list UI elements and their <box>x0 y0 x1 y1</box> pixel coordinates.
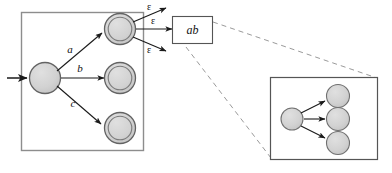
transition-a-label: a <box>67 43 73 55</box>
transition-c-label: c <box>71 97 76 109</box>
epsilon-label-lower: ε <box>147 44 151 55</box>
start-state <box>30 63 61 94</box>
magnifier-line-upper <box>213 22 377 78</box>
state-bottom-outer-circle <box>105 113 136 144</box>
transition-c-arrow <box>57 86 101 124</box>
diagram-canvas: a b c ε ε ε ab <box>0 0 392 173</box>
magnifier-line-lower <box>186 47 271 158</box>
inset-state-bottom <box>327 132 350 155</box>
state-top-outer-circle <box>105 14 136 45</box>
epsilon-label-upper: ε <box>147 1 151 12</box>
epsilon-label-middle: ε <box>151 15 155 26</box>
inset-state-middle <box>327 108 350 131</box>
transition-b-label: b <box>77 62 83 74</box>
ab-label-text: ab <box>187 23 199 37</box>
inset-start-state <box>281 108 303 130</box>
state-middle-outer-circle <box>105 63 136 94</box>
figure-root: a b c ε ε ε ab <box>0 0 392 173</box>
inset-state-top <box>327 85 350 108</box>
